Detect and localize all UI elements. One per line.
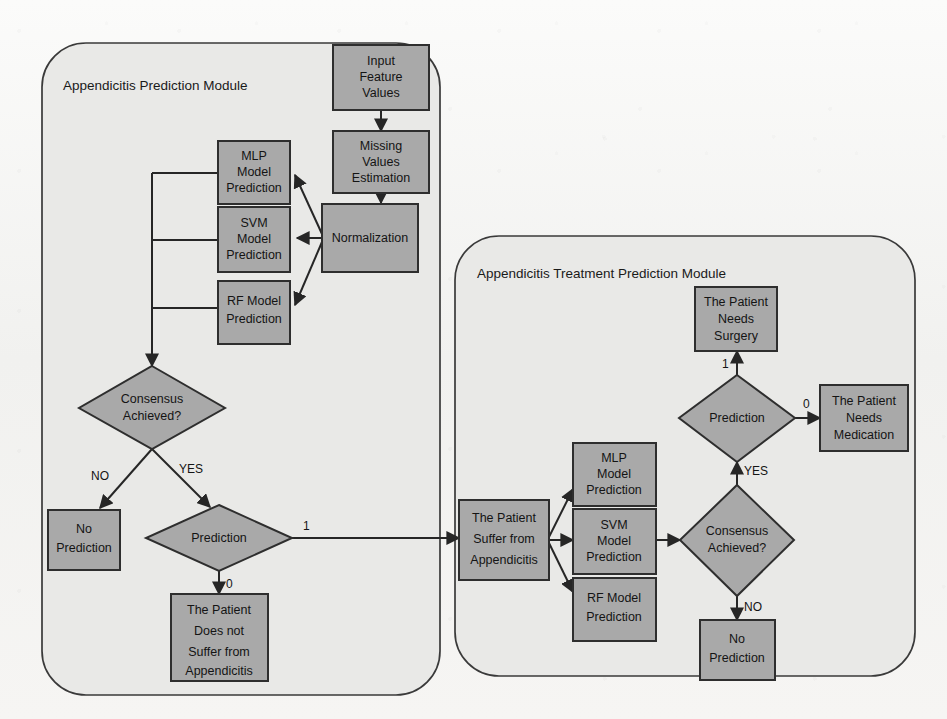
node-line: SVM	[600, 518, 627, 532]
node-line: Prediction	[586, 610, 642, 624]
node-line: Achieved?	[123, 409, 181, 423]
node-line: Consensus	[706, 524, 769, 538]
node-line: Missing	[360, 139, 402, 153]
node-line: Prediction	[226, 248, 282, 262]
module-title-treatment: Appendicitis Treatment Prediction Module	[477, 266, 726, 281]
flowchart-canvas: Appendicitis Prediction Module Appendici…	[0, 0, 947, 719]
flowchart-figure: Appendicitis Prediction Module Appendici…	[0, 0, 947, 719]
node-line: Values	[362, 155, 399, 169]
node-line: Does not	[194, 624, 245, 638]
node-patient-needs-medication: The Patient Needs Medication	[820, 385, 908, 451]
node-line: Consensus	[121, 392, 184, 406]
node-line: Input	[367, 54, 395, 68]
module-container-treatment	[455, 236, 915, 676]
node-line: Feature	[359, 70, 402, 84]
node-line: MLP	[601, 451, 627, 465]
node-line: The Patient	[187, 603, 251, 617]
edge-label-consensus-no-left: NO	[91, 469, 109, 483]
node-line: Estimation	[352, 171, 410, 185]
node-line: Suffer from	[473, 532, 535, 546]
node-line: No	[76, 522, 92, 536]
node-input-feature-values: Input Feature Values	[333, 45, 429, 110]
node-line: Prediction	[226, 312, 282, 326]
edge-label-consensus-yes-left: YES	[179, 462, 203, 476]
node-patient-not-suffer: The Patient Does not Suffer from Appendi…	[171, 594, 268, 681]
node-svm-model-prediction-left: SVM Model Prediction	[218, 207, 290, 272]
node-line: The Patient	[704, 295, 768, 309]
node-line: RF Model	[587, 591, 641, 605]
node-line: Prediction	[709, 411, 765, 425]
node-line: Appendicitis	[470, 553, 537, 567]
node-line: Needs	[718, 312, 754, 326]
node-line: Prediction	[709, 651, 765, 665]
node-patient-needs-surgery: The Patient Needs Surgery	[695, 287, 777, 351]
node-mlp-model-prediction-left: MLP Model Prediction	[218, 141, 290, 204]
node-rf-model-prediction-right: RF Model Prediction	[573, 578, 656, 641]
node-line: MLP	[241, 149, 267, 163]
node-line: SVM	[240, 216, 267, 230]
edge-label-prediction-zero-left: 0	[226, 577, 233, 591]
module-title-prediction: Appendicitis Prediction Module	[63, 78, 248, 93]
node-line: Prediction	[191, 531, 247, 545]
node-svm-model-prediction-right: SVM Model Prediction	[573, 509, 656, 574]
node-line: The Patient	[832, 394, 896, 408]
node-line: Medication	[834, 428, 894, 442]
node-line: Prediction	[56, 541, 112, 555]
node-patient-suffer: The Patient Suffer from Appendicitis	[459, 500, 549, 580]
node-normalization: Normalization	[322, 204, 418, 272]
node-no-prediction-right: No Prediction	[700, 620, 775, 680]
edge-label-prediction-one-left: 1	[303, 519, 310, 533]
node-line: Appendicitis	[185, 664, 252, 678]
node-line: The Patient	[472, 511, 536, 525]
node-line: Model	[237, 165, 271, 179]
node-line: Needs	[846, 411, 882, 425]
node-line: Suffer from	[188, 645, 250, 659]
edge-label-consensus-no-right: NO	[744, 600, 762, 614]
node-missing-values-estimation: Missing Values Estimation	[333, 131, 429, 193]
node-no-prediction-left: No Prediction	[48, 510, 120, 570]
node-line: Achieved?	[708, 541, 766, 555]
node-line: Model	[597, 467, 631, 481]
node-line: Model	[237, 232, 271, 246]
node-line: Surgery	[714, 329, 759, 343]
node-line: No	[729, 632, 745, 646]
node-line: Prediction	[586, 550, 642, 564]
node-line: Normalization	[332, 231, 408, 245]
node-line: RF Model	[227, 294, 281, 308]
node-line: Model	[597, 534, 631, 548]
node-line: Prediction	[586, 483, 642, 497]
edge-label-prediction-one-right: 1	[722, 357, 729, 371]
edge-label-consensus-yes-right: YES	[744, 464, 768, 478]
node-mlp-model-prediction-right: MLP Model Prediction	[573, 443, 656, 506]
node-rf-model-prediction-left: RF Model Prediction	[218, 281, 290, 344]
node-line: Values	[362, 86, 399, 100]
node-line: Prediction	[226, 181, 282, 195]
edge-label-prediction-zero-right: 0	[803, 397, 810, 411]
